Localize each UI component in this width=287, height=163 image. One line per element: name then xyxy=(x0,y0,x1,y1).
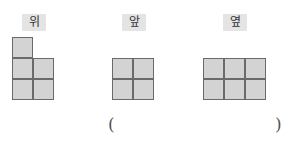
top-view-cell xyxy=(33,79,54,100)
front-view-cell xyxy=(112,58,133,79)
side-view-cell xyxy=(245,58,266,79)
answer-close-paren: ) xyxy=(275,114,282,134)
top-view-cell xyxy=(12,58,33,79)
front-view-cell xyxy=(112,79,133,100)
front-view-cell xyxy=(133,79,154,100)
side-view-cell xyxy=(224,79,245,100)
top-view-cell xyxy=(12,37,33,58)
front-view-cell xyxy=(133,58,154,79)
answer-open-paren: ( xyxy=(108,114,115,134)
top-view-cell xyxy=(33,58,54,79)
side-view-cell xyxy=(203,58,224,79)
label-front-view: 앞 xyxy=(122,14,146,31)
side-view-cell xyxy=(245,79,266,100)
side-view-cell xyxy=(224,58,245,79)
top-view-cell xyxy=(12,79,33,100)
label-top-view: 위 xyxy=(22,14,46,31)
answer-blank[interactable] xyxy=(120,114,270,134)
side-view-cell xyxy=(203,79,224,100)
label-side-view: 옆 xyxy=(223,14,247,31)
